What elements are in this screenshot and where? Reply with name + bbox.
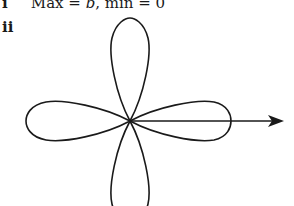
- petal-top: [111, 18, 149, 121]
- rose-curve-diagram: [0, 0, 294, 206]
- petal-bottom: [111, 121, 149, 206]
- petal-left: [26, 101, 130, 140]
